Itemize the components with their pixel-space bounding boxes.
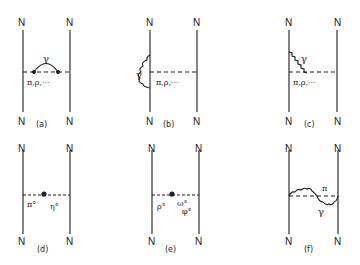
svg-text:N: N	[146, 17, 153, 28]
panel-e	[152, 150, 199, 234]
pion-label-f: π	[322, 184, 327, 193]
photon-label-b: γ	[136, 69, 142, 80]
caption-e: (e)	[165, 245, 176, 254]
svg-text:N: N	[195, 236, 202, 247]
svg-text:N: N	[18, 236, 25, 247]
phi0-label: φ°	[182, 207, 192, 216]
panel-a	[23, 30, 70, 112]
panel-d	[23, 150, 70, 234]
svg-text:N: N	[285, 116, 292, 127]
exchange-label-b: π,ρ,···	[156, 78, 179, 87]
svg-text:N: N	[334, 143, 341, 154]
svg-text:N: N	[66, 236, 73, 247]
nucleon-labels: N N N N N N N N N N N N N N N N N N N N …	[18, 17, 341, 247]
svg-text:N: N	[18, 143, 25, 154]
caption-f: (f)	[304, 245, 313, 254]
caption-c: (c)	[304, 120, 315, 129]
svg-text:N: N	[148, 143, 155, 154]
mixing-vertex	[42, 192, 46, 196]
svg-text:N: N	[193, 17, 200, 28]
eta0-label: η°	[50, 202, 59, 211]
rho0-label: ρ°	[157, 202, 166, 211]
photon-label-a: γ	[43, 53, 49, 64]
exchange-label-a: π,ρ,···	[27, 78, 50, 87]
panel-b	[138, 30, 197, 112]
mixing-vertex	[170, 192, 174, 196]
caption-b: (b)	[163, 120, 174, 129]
svg-text:N: N	[195, 143, 202, 154]
svg-text:N: N	[18, 17, 25, 28]
caption-d: (d)	[37, 245, 48, 254]
pi0-label: π°	[27, 200, 36, 209]
svg-text:N: N	[334, 116, 341, 127]
photon-loop	[34, 64, 58, 73]
svg-text:N: N	[146, 116, 153, 127]
svg-text:N: N	[285, 143, 292, 154]
svg-text:N: N	[18, 116, 25, 127]
photon-label-c: γ	[301, 53, 307, 64]
svg-text:N: N	[193, 116, 200, 127]
svg-text:N: N	[285, 17, 292, 28]
svg-text:N: N	[285, 236, 292, 247]
feynman-diagram-figure: N N N N N N N N N N N N N N N N N N N N …	[0, 0, 360, 265]
svg-text:N: N	[66, 17, 73, 28]
exchange-label-c: π,ρ,···	[293, 78, 316, 87]
svg-text:N: N	[148, 236, 155, 247]
svg-text:N: N	[334, 236, 341, 247]
photon-label-f: γ	[318, 206, 324, 217]
svg-text:N: N	[66, 116, 73, 127]
panel-c	[289, 30, 337, 112]
panel-f	[289, 150, 338, 234]
svg-text:N: N	[334, 17, 341, 28]
svg-text:N: N	[66, 143, 73, 154]
caption-a: (a)	[36, 120, 47, 129]
